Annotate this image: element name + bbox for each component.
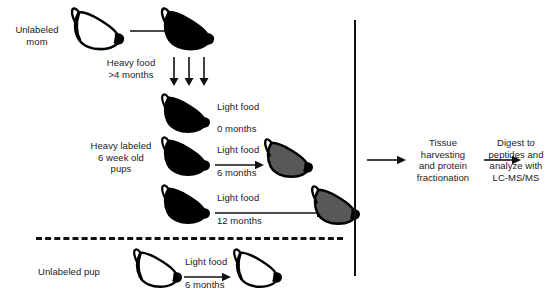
unlabeled-mom-label: Unlabeled mom [4,24,70,47]
chase-row-12-duration: 12 months [217,215,287,227]
unlabeled-mom-mouse-icon [70,8,126,56]
control-group-divider [36,237,343,240]
heavy-labeled-mom-mouse-icon [160,8,216,56]
offspring-arrow-2 [183,57,195,87]
heavy-food-label: Heavy food >4 months [94,57,168,80]
pup-mouse-row-6-months-icon [160,137,212,181]
unlabeled-pup-result-mouse-icon [232,249,284,293]
tissue-harvesting-step: Tissue harvesting and protein fractionat… [404,137,482,183]
chase-row-12-diet: Light food [217,192,287,204]
pup-mouse-row-0-months-icon [160,94,212,138]
chase-row-0-duration: 0 months [217,123,287,135]
partially-labeled-mouse-6-months-icon [263,139,315,183]
unlabeled-pup-label: Unlabeled pup [38,266,128,278]
panel-divider [354,20,356,276]
offspring-arrow-1 [168,57,180,87]
chase-row-0-diet: Light food [217,101,287,113]
digest-analyze-step: Digest to peptides and analyze with LC-M… [477,137,555,183]
heavy-labeled-pups-label: Heavy labeled 6 week old pups [78,140,164,175]
offspring-arrow-3 [198,57,210,87]
pup-mouse-row-12-months-icon [160,185,212,229]
workflow-diagram: Unlabeled mom Heavy food >4 months [0,0,558,301]
to-tissue-harvesting-arrow [367,154,407,166]
unlabeled-pup-mouse-icon [132,249,184,293]
